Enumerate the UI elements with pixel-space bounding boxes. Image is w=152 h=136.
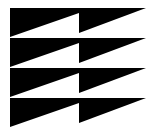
- logo-row-4: [10, 98, 146, 127]
- right-wedge: [79, 68, 146, 93]
- logo-row-2: [10, 38, 146, 67]
- right-wedge: [79, 8, 146, 33]
- logo: [0, 0, 152, 136]
- logo-row-1: [10, 8, 146, 37]
- left-wedge: [10, 8, 79, 37]
- sawtooth-logo-icon: [0, 0, 152, 136]
- left-wedge: [10, 38, 79, 67]
- right-wedge: [79, 38, 146, 63]
- left-wedge: [10, 68, 79, 97]
- right-wedge: [79, 98, 146, 123]
- left-wedge: [10, 98, 79, 127]
- logo-row-3: [10, 68, 146, 97]
